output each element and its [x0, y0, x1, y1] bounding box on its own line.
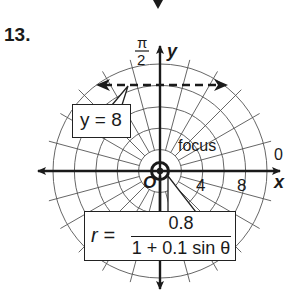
top-arrow-tip	[153, 0, 163, 9]
x-axis-label: x	[273, 172, 285, 192]
focus-point	[157, 168, 163, 174]
angle-zero-label: 0	[274, 146, 283, 163]
tick-label-4: 4	[196, 176, 205, 195]
tick-label-8: 8	[237, 176, 246, 195]
y-axis-label: y	[166, 41, 178, 61]
directrix-callout-pointer	[112, 86, 128, 105]
angle-pi-label: π	[137, 34, 147, 51]
angle-two-label: 2	[137, 51, 145, 68]
directrix-label: y = 8	[80, 109, 122, 131]
directrix-label-box: y = 8	[72, 104, 131, 138]
problem-number: 13.	[4, 24, 30, 46]
equation-box: r = 0.8 1 + 0.1 sin θ	[84, 211, 236, 261]
directrix-arrow-right	[214, 79, 228, 91]
origin-label: O	[143, 173, 156, 192]
equation-lhs: r =	[91, 224, 115, 247]
focus-label: focus	[178, 137, 216, 154]
equation-callout-pointer	[168, 176, 196, 212]
equation-denominator: 1 + 0.1 sin θ	[127, 238, 235, 259]
figure: π 2 y 0 x 4 8 O focus 13. y = 8 r = 0.8 …	[0, 0, 292, 291]
equation-numerator: 0.8	[131, 213, 231, 234]
